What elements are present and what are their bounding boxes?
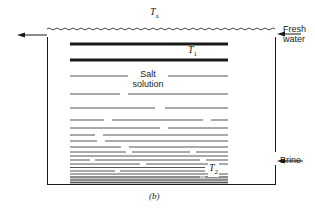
upper-convective-zone-lines: [70, 44, 228, 60]
brine-zone: [70, 176, 228, 184]
fresh-water-label: Fresh water: [283, 24, 306, 44]
outflow-arrow-icon: [17, 33, 47, 38]
lower-temp-label: T2: [208, 163, 219, 177]
salt-solution-label: Salt solution: [128, 69, 168, 89]
ambient-temp-label: Ta: [150, 7, 159, 21]
solar-pond-diagram: [0, 0, 315, 213]
water-surface: [47, 28, 275, 30]
figure-label: (b): [149, 191, 160, 201]
brine-label: Brine: [280, 155, 301, 165]
upper-temp-label: T1: [188, 45, 197, 59]
salt-gradient-lines: [70, 76, 228, 183]
